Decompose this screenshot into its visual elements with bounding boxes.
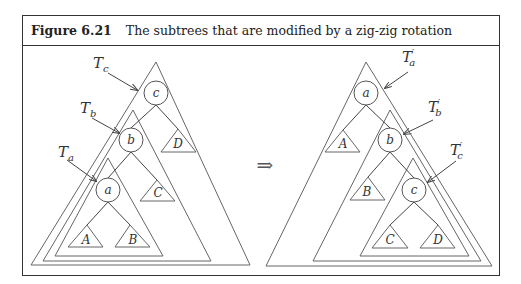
- node-label-c: c: [153, 86, 160, 100]
- edge-a-A: [343, 105, 366, 130]
- arrow-Tc: [108, 73, 137, 90]
- edge-a-B: [108, 202, 130, 225]
- subtree-outline-Tc: [31, 62, 250, 265]
- edge-b-C: [131, 152, 157, 180]
- subtree-label-D: D: [432, 233, 443, 247]
- label-Tb: Tb: [80, 99, 96, 119]
- zig-zig-diagram: D C A B c b a Tc Tb Ta ⇒ A B: [0, 0, 521, 284]
- edge-c-C: [390, 202, 414, 225]
- label-Tb-prime: T′b: [428, 97, 442, 118]
- subtree-label-B: B: [128, 233, 138, 247]
- subtree-outline-Tc-prime: [360, 158, 469, 256]
- implies-arrow-icon: ⇒: [257, 153, 274, 177]
- node-label-b: b: [127, 133, 135, 147]
- label-Ta-prime: T′a: [402, 47, 415, 68]
- node-label-a: a: [362, 86, 369, 100]
- label-Tc-prime: T′c: [450, 140, 463, 161]
- arrow-Tb-prime: [404, 120, 433, 134]
- edge-b-B: [368, 152, 390, 177]
- left-tree: D C A B c b a Tc Tb Ta: [31, 54, 250, 265]
- edge-b-c: [390, 152, 414, 178]
- label-Ta: Ta: [58, 143, 74, 163]
- subtree-label-A: A: [81, 233, 91, 247]
- subtree-label-C: C: [385, 233, 394, 247]
- right-tree: A B C D a b c T′a T′b T′c: [266, 47, 492, 266]
- node-label-c: c: [411, 183, 418, 197]
- subtree-label-D: D: [172, 137, 183, 151]
- arrow-Tb: [92, 118, 119, 133]
- node-label-b: b: [386, 133, 394, 147]
- arrow-Ta-prime: [385, 72, 408, 88]
- edge-c-b: [131, 105, 156, 128]
- arrow-Tc-prime: [428, 161, 456, 182]
- edge-c-D: [414, 202, 438, 225]
- subtree-outline-Ta: [55, 158, 163, 256]
- node-label-a: a: [104, 183, 111, 197]
- subtree-label-B: B: [362, 185, 372, 199]
- edge-a-A: [87, 202, 108, 225]
- subtree-label-C: C: [153, 186, 162, 200]
- label-Tc: Tc: [93, 54, 109, 74]
- arrow-Ta: [67, 160, 96, 181]
- edge-c-D: [156, 105, 178, 129]
- subtree-label-A: A: [338, 137, 348, 151]
